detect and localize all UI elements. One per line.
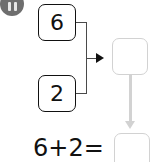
sum-result-box[interactable] [112,38,148,75]
first-addend-tile[interactable]: 6 [38,4,76,41]
second-addend-value: 2 [50,83,64,105]
addition-equation: 6+2= [33,133,104,162]
pause-icon[interactable] [0,0,24,16]
arrow-down-icon [125,121,135,129]
arrow-down-shaft [129,75,132,123]
pause-icon-bar-left [8,2,11,11]
worksheet-canvas: 6 2 6+2= [0,0,153,162]
second-addend-tile[interactable]: 2 [38,75,76,112]
equation-answer-box[interactable] [114,133,150,162]
pause-icon-bar-right [14,2,17,11]
first-addend-value: 6 [50,12,64,34]
arrow-right-icon [96,53,104,63]
